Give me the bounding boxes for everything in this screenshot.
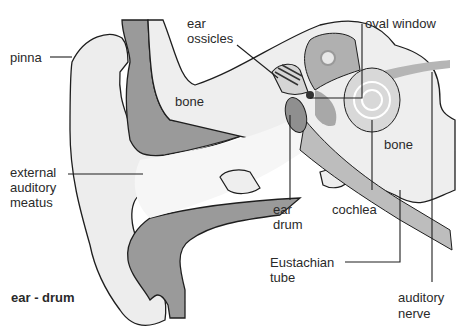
diagram-title: ear - drum: [11, 290, 75, 305]
label-ear-ossicles-1: ear: [187, 16, 206, 31]
label-eustachian-1: Eustachian: [270, 255, 334, 270]
label-bone-upper: bone: [175, 94, 204, 109]
label-ear-drum-2: drum: [273, 217, 303, 232]
label-oval-window: oval window: [365, 16, 436, 31]
ear-anatomy-diagram: [0, 0, 467, 336]
label-external-2: auditory: [10, 180, 56, 195]
label-bone-right: bone: [384, 137, 413, 152]
label-auditory-nerve-2: nerve: [398, 306, 431, 321]
label-ear-ossicles-2: ossicles: [187, 31, 233, 46]
label-external-1: external: [10, 165, 56, 180]
label-auditory-nerve-1: auditory: [398, 290, 444, 305]
label-external-3: meatus: [10, 195, 53, 210]
label-eustachian-2: tube: [270, 270, 295, 285]
label-cochlea: cochlea: [332, 202, 377, 217]
label-pinna: pinna: [10, 50, 42, 65]
label-ear-drum-1: ear: [273, 202, 292, 217]
